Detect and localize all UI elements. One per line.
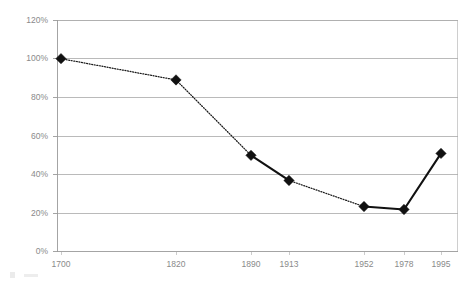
x-tick-label: 1978 [395, 259, 414, 269]
y-tick-label: 80% [31, 92, 48, 102]
x-tick-label: 1913 [280, 259, 299, 269]
y-tick-label: 100% [26, 53, 48, 63]
y-tick-label: 60% [31, 131, 48, 141]
x-tickmarks [62, 252, 442, 255]
line-chart: 120% 100% 80% 60% 40% 20% 0% 1700 1820 1… [0, 0, 474, 284]
y-tickmarks [53, 21, 57, 252]
x-tick-label: 1820 [167, 259, 186, 269]
x-tick-label: 1890 [242, 259, 261, 269]
plot-background [57, 20, 458, 252]
y-tick-label: 40% [31, 169, 48, 179]
scan-artifact [10, 272, 38, 278]
y-tick-labels: 120% 100% 80% 60% 40% 20% 0% [26, 15, 48, 256]
x-tick-label: 1700 [52, 259, 71, 269]
chart-container: 120% 100% 80% 60% 40% 20% 0% 1700 1820 1… [0, 0, 474, 284]
y-tick-label: 20% [31, 208, 48, 218]
y-tick-label: 0% [36, 246, 49, 256]
x-tick-label: 1995 [432, 259, 451, 269]
y-tick-label: 120% [26, 15, 48, 25]
x-tick-labels: 1700 1820 1890 1913 1952 1978 1995 [52, 259, 451, 269]
x-tick-label: 1952 [355, 259, 374, 269]
